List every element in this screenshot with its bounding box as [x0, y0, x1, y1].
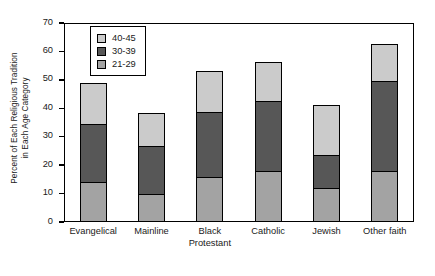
- bar-segment-21-29[interactable]: [255, 171, 282, 222]
- legend-item-40-45[interactable]: 40-45: [97, 32, 136, 44]
- y-axis-tick-label: 10: [13, 187, 53, 197]
- bar-segment-30-39[interactable]: [255, 101, 282, 172]
- x-axis-label: Other faith: [356, 226, 414, 238]
- bar-segment-21-29[interactable]: [138, 194, 165, 222]
- bar-segment-40-45[interactable]: [196, 71, 223, 114]
- x-axis-label: Jewish: [297, 226, 355, 238]
- stacked-bar[interactable]: [371, 44, 398, 223]
- x-axis-label-line: Protestant: [181, 238, 239, 250]
- bar-segment-40-45[interactable]: [138, 113, 165, 147]
- y-axis-tick-mark: [59, 221, 64, 222]
- bar-segment-30-39[interactable]: [371, 81, 398, 172]
- stacked-bar-chart: Percent of Each Religious Tradition in E…: [0, 0, 435, 276]
- bar-segment-30-39[interactable]: [313, 155, 340, 189]
- bar-segment-21-29[interactable]: [371, 171, 398, 222]
- bar-segment-30-39[interactable]: [80, 124, 107, 184]
- x-axis-label: BlackProtestant: [181, 226, 239, 249]
- y-axis-tick-label: 20: [13, 159, 53, 169]
- legend-swatch-icon: [97, 47, 106, 56]
- legend-item-label: 40-45: [112, 33, 136, 43]
- x-axis-label-line: Jewish: [297, 226, 355, 238]
- x-axis-label: Mainline: [122, 226, 180, 238]
- x-axis-label-line: Mainline: [122, 226, 180, 238]
- bar-segment-40-45[interactable]: [255, 62, 282, 102]
- bar-segment-30-39[interactable]: [196, 112, 223, 177]
- y-axis-tick-mark: [59, 79, 64, 80]
- legend-item-label: 21-29: [112, 59, 136, 69]
- bar-slot: [239, 23, 297, 222]
- bar-segment-21-29[interactable]: [313, 188, 340, 222]
- y-axis-tick-label: 60: [13, 45, 53, 55]
- y-axis-tick-label: 50: [13, 73, 53, 83]
- y-axis-tick-label: 30: [13, 130, 53, 140]
- y-axis-tick-label: 40: [13, 102, 53, 112]
- y-axis-tick-mark: [59, 108, 64, 109]
- bar-slot: [297, 23, 355, 222]
- bar-slot: [356, 23, 414, 222]
- x-axis-labels: EvangelicalMainlineBlackProtestantCathol…: [64, 226, 414, 266]
- bar-segment-21-29[interactable]: [80, 182, 107, 222]
- y-axis-tick-mark: [59, 164, 64, 165]
- bar-segment-30-39[interactable]: [138, 146, 165, 194]
- legend: 40-4530-3921-29: [90, 26, 146, 76]
- y-axis-tick-mark: [59, 22, 64, 23]
- x-axis-label-line: Catholic: [239, 226, 297, 238]
- stacked-bar[interactable]: [255, 62, 282, 222]
- x-axis-label-line: Other faith: [356, 226, 414, 238]
- y-axis-tick-mark: [59, 136, 64, 137]
- x-axis-label: Evangelical: [64, 226, 122, 238]
- y-axis-tick-label: 0: [13, 216, 53, 226]
- legend-item-30-39[interactable]: 30-39: [97, 45, 136, 57]
- stacked-bar[interactable]: [138, 113, 165, 222]
- bar-segment-40-45[interactable]: [371, 44, 398, 82]
- bar-segment-21-29[interactable]: [196, 177, 223, 222]
- legend-item-label: 30-39: [112, 46, 136, 56]
- legend-swatch-icon: [97, 60, 106, 69]
- y-axis-tick-mark: [59, 193, 64, 194]
- bar-segment-40-45[interactable]: [313, 105, 340, 156]
- x-axis-label-line: Evangelical: [64, 226, 122, 238]
- y-axis-tick-mark: [59, 51, 64, 52]
- x-axis-label-line: Black: [181, 226, 239, 238]
- legend-swatch-icon: [97, 34, 106, 43]
- y-axis-tick-label: 70: [13, 17, 53, 27]
- x-axis-label: Catholic: [239, 226, 297, 238]
- bar-slot: [181, 23, 239, 222]
- bar-segment-40-45[interactable]: [80, 83, 107, 124]
- stacked-bar[interactable]: [196, 71, 223, 223]
- stacked-bar[interactable]: [80, 83, 107, 222]
- stacked-bar[interactable]: [313, 105, 340, 222]
- legend-item-21-29[interactable]: 21-29: [97, 58, 136, 70]
